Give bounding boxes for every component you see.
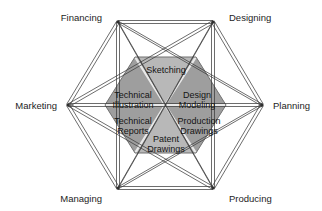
node-dot-planning[interactable] (260, 103, 263, 106)
inner-label-sketching: Sketching (146, 65, 186, 75)
diagram-canvas: Sketching Design Modeling Production Dra… (0, 0, 322, 211)
node-dot-producing[interactable] (211, 186, 214, 189)
inner-label-technical-illustration-line1: Technical (114, 90, 152, 100)
inner-label-production-drawings-line1: Production (177, 116, 220, 126)
outer-label-managing: Managing (60, 193, 102, 204)
outer-label-producing: Producing (229, 193, 272, 204)
outer-label-financing: Financing (61, 12, 102, 23)
inner-label-patent-drawings-line1: Patent (153, 134, 180, 144)
node-dot-designing[interactable] (211, 20, 214, 23)
inner-label-technical-reports-line2: Reports (117, 126, 149, 136)
edge-financing-designing (118, 21, 213, 24)
node-dot-managing[interactable] (116, 186, 119, 189)
inner-label-technical-reports-line1: Technical (114, 116, 152, 126)
hexagon-network-svg: Sketching Design Modeling Production Dra… (0, 0, 322, 211)
inner-label-patent-drawings-line2: Drawings (147, 144, 185, 154)
outer-label-planning: Planning (273, 100, 310, 111)
node-dot-financing[interactable] (116, 20, 119, 23)
outer-label-designing: Designing (229, 12, 271, 23)
inner-label-production-drawings-line2: Drawings (180, 126, 218, 136)
node-dot-marketing[interactable] (66, 103, 69, 106)
edge-designing-planning (212, 21, 264, 106)
inner-label-design-modeling-line1: Design (183, 90, 211, 100)
inner-label-technical-illustration-line2: Illustration (112, 100, 153, 110)
outer-label-marketing: Marketing (15, 100, 57, 111)
inner-label-design-modeling-line2: Modeling (179, 100, 216, 110)
node-connections (67, 21, 264, 190)
edge-producing-managing (118, 187, 213, 190)
